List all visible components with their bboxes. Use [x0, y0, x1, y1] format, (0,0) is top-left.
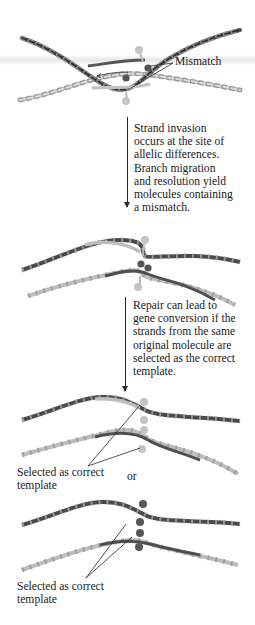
step-1-description: Strand invasion occurs at the site of al…	[134, 122, 233, 214]
panel-4-dna-diagram	[0, 495, 255, 580]
panel-3-dna-diagram	[0, 395, 255, 475]
or-label: or	[127, 470, 137, 483]
upper-dna-helix	[22, 397, 240, 421]
lower-dna-helix	[22, 540, 238, 570]
upper-dna-helix	[22, 240, 240, 270]
selected-template-label-1: Selected as correct template	[17, 466, 104, 492]
step-1-arrow	[127, 117, 128, 207]
gene-conversion-figure: Mismatch Strand invasion occurs at the s…	[0, 0, 255, 625]
selected-pointer-lines	[86, 524, 132, 578]
selected-template-label-2: Selected as correct template	[17, 580, 104, 606]
upper-dna-helix	[22, 502, 240, 525]
step-2-description: Repair can lead to gene conversion if th…	[133, 299, 236, 378]
mismatch-label: Mismatch	[175, 55, 221, 68]
step-2-arrow	[125, 297, 126, 391]
